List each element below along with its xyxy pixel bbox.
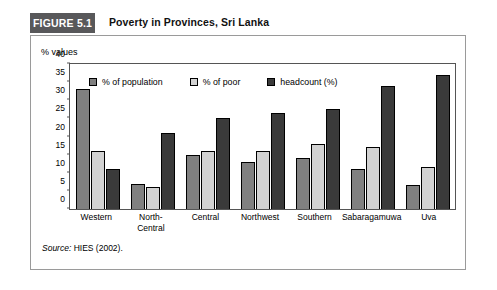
legend-label-population: % of population	[102, 77, 163, 87]
bar[interactable]	[326, 109, 340, 209]
legend-item-headcount: headcount (%)	[267, 77, 337, 87]
figure-number-badge: FIGURE 5.1	[30, 13, 95, 33]
figure-title: Poverty in Provinces, Sri Lanka	[109, 16, 269, 28]
bar[interactable]	[161, 133, 175, 209]
legend-swatch-poor-icon	[190, 78, 198, 86]
source-label: Source:	[42, 243, 71, 253]
x-axis-label: Sabaragamuwa	[342, 212, 402, 233]
figure-panel: % values 0510152025303540 % of populatio…	[30, 35, 466, 270]
bar[interactable]	[106, 169, 120, 209]
x-axis-label: Central	[178, 212, 233, 233]
bar-group	[345, 64, 400, 209]
bar[interactable]	[201, 151, 215, 209]
bar[interactable]	[351, 169, 365, 209]
x-axis-label: Southern	[287, 212, 342, 233]
legend-item-poor: % of poor	[190, 77, 241, 87]
bar[interactable]	[91, 151, 105, 209]
bar-group	[400, 64, 455, 209]
y-axis-tick-label: 20	[25, 122, 70, 132]
y-axis-tick-label: 10	[25, 158, 70, 168]
legend-swatch-headcount-icon	[267, 78, 275, 86]
bar-chart: % values 0510152025303540 % of populatio…	[31, 36, 467, 271]
y-axis-tick-label: 15	[25, 140, 70, 150]
bar[interactable]	[366, 147, 380, 209]
bar[interactable]	[271, 113, 285, 209]
legend-swatch-population-icon	[89, 78, 97, 86]
bar[interactable]	[381, 86, 395, 209]
source-note: Source: HIES (2002).	[42, 243, 123, 253]
legend-item-population: % of population	[89, 77, 163, 87]
y-axis-tick-label: 30	[25, 85, 70, 95]
y-axis-tick-label: 25	[25, 103, 70, 113]
bar[interactable]	[421, 167, 435, 209]
bar[interactable]	[406, 185, 420, 209]
x-axis-label: North- Central	[124, 212, 179, 233]
y-axis-tick-label: 0	[25, 194, 70, 204]
chart-legend: % of population % of poor headcount (%)	[89, 77, 338, 87]
bar[interactable]	[131, 184, 145, 209]
bar[interactable]	[436, 75, 450, 209]
legend-label-poor: % of poor	[203, 77, 241, 87]
bar[interactable]	[241, 162, 255, 209]
bar[interactable]	[256, 151, 270, 209]
bar[interactable]	[296, 158, 310, 209]
y-axis-tick-label: 5	[25, 176, 70, 186]
bar[interactable]	[186, 155, 200, 209]
legend-label-headcount: headcount (%)	[280, 77, 337, 87]
x-axis-label: Uva	[401, 212, 456, 233]
y-axis-tick-label: 40	[25, 49, 70, 59]
y-axis-tick-label: 35	[25, 67, 70, 77]
bar[interactable]	[76, 89, 90, 209]
figure-header: FIGURE 5.1 Poverty in Provinces, Sri Lan…	[30, 13, 466, 34]
x-axis-labels: WesternNorth- CentralCentralNorthwestSou…	[69, 212, 456, 233]
bar[interactable]	[216, 118, 230, 209]
bar[interactable]	[311, 144, 325, 209]
bar[interactable]	[146, 187, 160, 209]
x-axis-label: Western	[69, 212, 124, 233]
source-text: HIES (2002).	[71, 243, 123, 253]
x-axis-label: Northwest	[233, 212, 288, 233]
